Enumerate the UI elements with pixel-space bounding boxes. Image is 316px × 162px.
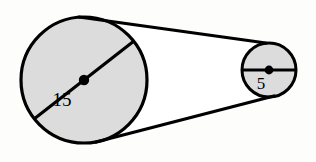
large-circle-center-dot [79, 75, 89, 85]
geometry-figure: 15 5 [0, 0, 316, 162]
figure-canvas: 15 5 [0, 0, 316, 162]
large-circle-label: 15 [53, 89, 72, 110]
small-circle-center-dot [265, 66, 274, 75]
small-circle-label: 5 [257, 74, 266, 93]
